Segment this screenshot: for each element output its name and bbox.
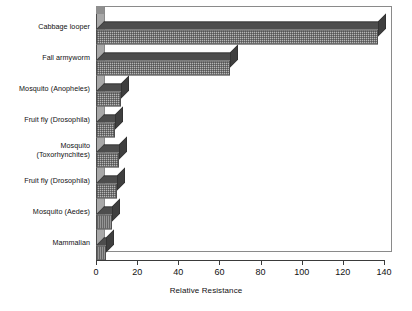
category-label: Mosquito (Toxorhynchites) [36,142,90,159]
bar [96,206,120,221]
category-label: Cabbage looper [38,23,90,31]
bar [96,22,386,37]
category-axis-labels: Cabbage looperFall armywormMosquito (Ano… [0,12,94,260]
x-axis-tick-label: 100 [294,267,309,277]
bar-front-face [96,122,115,137]
plot-area: 020406080100120140 [96,14,384,260]
category-label: Fall armyworm [42,54,90,62]
x-axis-tick-label: 0 [93,267,98,277]
x-axis-tick [384,261,385,265]
x-axis-tick [261,261,262,265]
bar-front-face [96,153,119,168]
chart-figure: Cabbage looperFall armywormMosquito (Ano… [0,0,412,311]
bar-front-face [96,245,106,260]
x-axis-tick [137,261,138,265]
bar-top-face [96,22,386,30]
category-label: Mosquito (Anopheles) [19,85,90,93]
category-label: Fruit fly (Drosophila) [24,115,90,123]
x-axis-line [96,260,385,261]
x-axis-tick [343,261,344,265]
category-label: Mammalian [52,238,90,246]
bar-front-face [96,184,117,199]
bar-front-face [96,91,121,106]
bar [96,53,238,68]
x-axis-tick-label: 120 [335,267,350,277]
x-axis-tick-label: 140 [376,267,391,277]
bar-front-face [96,30,378,45]
x-axis-tick [219,261,220,265]
bar-front-face [96,61,230,76]
x-axis-tick [96,261,97,265]
x-axis-tick-label: 80 [256,267,266,277]
bar [96,114,123,129]
x-axis-tick [178,261,179,265]
category-label: Fruit fly (Drosophila) [24,177,90,185]
bar [96,83,129,98]
x-axis-tick-label: 20 [132,267,142,277]
bar [96,176,125,191]
x-axis-tick [302,261,303,265]
category-label: Mosquito (Aedes) [33,208,90,216]
bar-front-face [96,214,112,229]
bar [96,237,114,252]
x-axis-tick-label: 60 [214,267,224,277]
bar-top-face [96,53,238,61]
x-axis-tick-label: 40 [173,267,183,277]
x-axis-title: Relative Resistance [0,286,412,295]
bar [96,145,127,160]
